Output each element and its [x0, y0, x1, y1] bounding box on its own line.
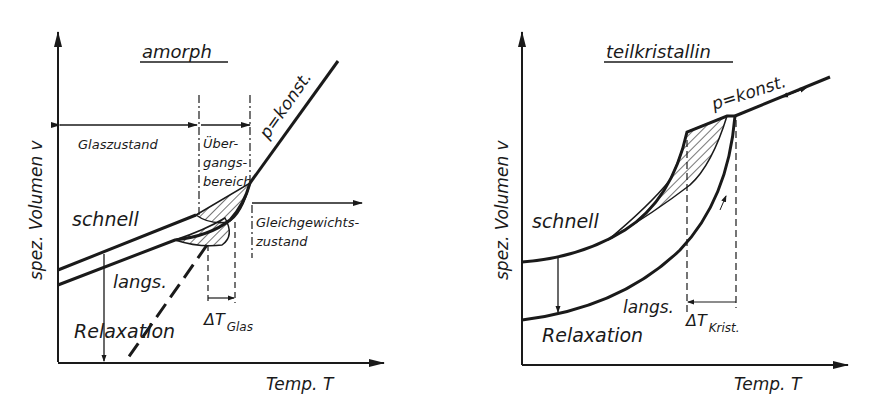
- transition-label-2: gangs-: [203, 155, 247, 170]
- delta-krist-label: ΔTKrist.: [684, 311, 740, 335]
- fast-label: schnell: [532, 210, 599, 232]
- hysteresis-area: [608, 116, 727, 240]
- diagram-title: amorph: [142, 41, 212, 62]
- y-axis-label: spez. Volumen v: [492, 139, 512, 280]
- diagram-canvas: spez. Volumen v Temp. T amorph Glaszusta…: [0, 0, 874, 417]
- x-axis-label: Temp. T: [266, 374, 335, 394]
- right-diagram-teilkristallin: spez. Volumen v Temp. T teilkristallin p…: [492, 32, 848, 394]
- transition-label-1: Über-: [203, 135, 238, 151]
- slow-label: langs.: [623, 297, 674, 317]
- glass-state-label: Glaszustand: [78, 137, 159, 152]
- delta-glass-label: ΔTGlas: [202, 310, 253, 334]
- slow-curve-arrow: [720, 196, 726, 210]
- slow-label: langs.: [113, 271, 167, 292]
- fast-label: schnell: [72, 208, 139, 230]
- x-axis-label: Temp. T: [734, 374, 803, 394]
- hysteresis-area-lower: [175, 218, 229, 246]
- left-diagram-amorph: spez. Volumen v Temp. T amorph Glaszusta…: [26, 32, 384, 394]
- relaxation-label: Relaxation: [74, 320, 175, 342]
- equilibrium-label-1: Gleichgewichts-: [256, 215, 359, 230]
- y-axis-label: spez. Volumen v: [26, 139, 46, 280]
- relaxation-label: Relaxation: [542, 324, 643, 346]
- pressure-label: p=konst.: [708, 71, 788, 114]
- diagram-title: teilkristallin: [606, 41, 711, 62]
- equilibrium-label-2: zustand: [255, 234, 308, 249]
